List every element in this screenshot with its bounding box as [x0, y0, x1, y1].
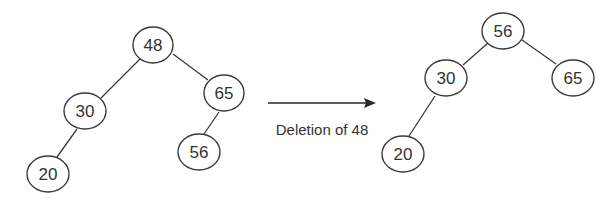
- tree-node-56: 56: [482, 13, 524, 49]
- before-tree-nodes: 48 30 65 20 56: [27, 27, 244, 192]
- bst-deletion-diagram: 48 30 65 20 56 Deletion of 48: [0, 0, 612, 201]
- node-label: 65: [564, 69, 583, 88]
- after-tree-nodes: 56 30 65 20: [382, 13, 594, 172]
- edge-56-30: [463, 43, 488, 65]
- tree-node-56: 56: [178, 134, 220, 170]
- node-label: 30: [437, 69, 456, 88]
- transition-label: Deletion of 48: [276, 121, 369, 138]
- node-label: 20: [394, 145, 413, 164]
- tree-node-20: 20: [27, 156, 69, 192]
- tree-node-65: 65: [204, 75, 244, 111]
- edge-48-30: [101, 59, 140, 98]
- edge-48-65: [173, 54, 208, 80]
- node-label: 20: [39, 165, 58, 184]
- tree-node-65: 65: [552, 60, 594, 96]
- edge-30-20: [409, 96, 435, 136]
- tree-node-30: 30: [425, 60, 467, 96]
- edge-65-56: [204, 112, 219, 134]
- transition-arrow: Deletion of 48: [268, 98, 376, 138]
- node-label: 56: [190, 143, 209, 162]
- edge-30-20: [57, 129, 77, 157]
- node-label: 48: [144, 36, 163, 55]
- edge-56-65: [522, 40, 556, 64]
- node-label: 56: [494, 22, 513, 41]
- tree-node-30: 30: [64, 93, 106, 129]
- node-label: 30: [76, 102, 95, 121]
- node-label: 65: [215, 84, 234, 103]
- tree-node-48: 48: [133, 27, 173, 63]
- tree-node-20: 20: [382, 136, 424, 172]
